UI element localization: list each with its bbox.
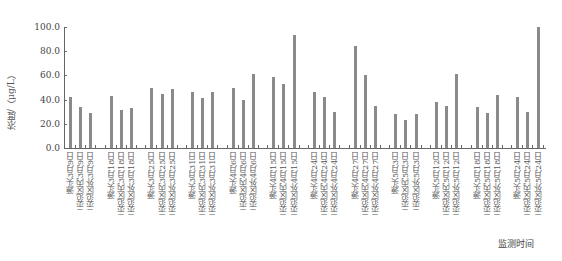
- x-category-label: 示范区外5月3日: [412, 152, 422, 230]
- bar: [333, 112, 336, 148]
- bar: [150, 88, 153, 149]
- x-tick: [522, 145, 523, 148]
- x-category-label: 示范区外4月24日: [330, 152, 340, 230]
- x-group-tick: [186, 145, 187, 148]
- x-category-label: 示范区外3月18日: [127, 152, 137, 230]
- x-tick: [461, 145, 462, 148]
- bar: [110, 96, 113, 148]
- x-tick: [126, 145, 127, 148]
- y-axis-line: [64, 27, 65, 149]
- x-tick: [329, 145, 330, 148]
- x-group-tick: [511, 145, 512, 148]
- x-category-label: 示范区内4月24日: [320, 152, 330, 230]
- x-tick: [400, 145, 401, 148]
- x-tick: [421, 145, 422, 148]
- bar: [232, 88, 235, 149]
- x-tick: [278, 145, 279, 148]
- bar: [323, 97, 326, 148]
- bar: [89, 113, 92, 148]
- bar: [252, 74, 255, 148]
- bar: [537, 27, 540, 148]
- x-group-tick: [267, 145, 268, 148]
- x-category-label: 示范区内4月27日: [361, 152, 371, 230]
- y-tick: [64, 75, 67, 76]
- bar: [171, 89, 174, 148]
- bar: [242, 100, 245, 148]
- x-category-label: 示范区内4月6日: [239, 152, 249, 230]
- x-tick: [410, 145, 411, 148]
- bar: [486, 113, 489, 148]
- x-category-label: 示范区外5月18日: [493, 152, 503, 230]
- y-tick-label: 60.0: [22, 70, 60, 80]
- y-tick: [64, 100, 67, 101]
- x-tick: [238, 145, 239, 148]
- y-tick: [64, 27, 67, 28]
- x-category-label: 源头5月12日: [432, 152, 442, 230]
- x-tick: [217, 145, 218, 148]
- x-tick: [136, 145, 137, 148]
- bar: [201, 98, 204, 148]
- x-category-label: 示范区内5月18日: [483, 152, 493, 230]
- bar: [374, 106, 377, 148]
- bar: [415, 114, 418, 148]
- x-category-label: 示范区内3月31日: [198, 152, 208, 230]
- x-tick: [532, 145, 533, 148]
- x-tick: [116, 145, 117, 148]
- x-group-tick: [145, 145, 146, 148]
- x-tick: [339, 145, 340, 148]
- bar: [191, 92, 194, 148]
- x-tick: [370, 145, 371, 148]
- x-tick: [85, 145, 86, 148]
- x-category-label: 示范区内5月24日: [523, 152, 533, 230]
- x-group-tick: [64, 145, 65, 148]
- y-tick-label: 40.0: [22, 95, 60, 105]
- bar: [516, 97, 519, 148]
- x-tick: [299, 145, 300, 148]
- bar: [404, 120, 407, 148]
- x-category-label: 示范区外3月25日: [168, 152, 178, 230]
- bar: [130, 108, 133, 148]
- bar: [272, 77, 275, 148]
- x-category-label: 源头3月18日: [107, 152, 117, 230]
- bar: [120, 110, 123, 148]
- x-category-label: 示范区内3月18日: [117, 152, 127, 230]
- x-group-tick: [430, 145, 431, 148]
- x-category-label: 源头3月9日: [66, 152, 76, 230]
- x-category-label: 示范区内5月3日: [401, 152, 411, 230]
- x-category-label: 源头5月3日: [391, 152, 401, 230]
- x-category-label: 源头3月25日: [147, 152, 157, 230]
- x-tick: [167, 145, 168, 148]
- x-group-tick: [308, 145, 309, 148]
- x-category-label: 源头4月24日: [310, 152, 320, 230]
- bar: [211, 92, 214, 148]
- bar: [313, 92, 316, 148]
- y-tick: [64, 51, 67, 52]
- x-group-tick: [389, 145, 390, 148]
- x-category-label: 示范区外4月6日: [249, 152, 259, 230]
- y-tick: [64, 124, 67, 125]
- y-tick-label: 100.0: [22, 22, 60, 32]
- x-group-tick: [349, 145, 350, 148]
- x-tick: [248, 145, 249, 148]
- x-tick: [502, 145, 503, 148]
- x-tick: [75, 145, 76, 148]
- x-category-label: 示范区内3月9日: [76, 152, 86, 230]
- x-group-tick: [471, 145, 472, 148]
- x-category-label: 源头5月18日: [473, 152, 483, 230]
- x-tick: [441, 145, 442, 148]
- bar: [282, 84, 285, 148]
- x-category-label: 示范区内4月15日: [279, 152, 289, 230]
- x-tick: [319, 145, 320, 148]
- bar-chart: 浓度/（μg/L） 0.020.040.060.080.0100.0 源头3月9…: [0, 0, 562, 261]
- bar: [435, 102, 438, 148]
- x-category-label: 示范区外5月12日: [452, 152, 462, 230]
- bar: [496, 95, 499, 148]
- x-category-label: 示范区外5月24日: [534, 152, 544, 230]
- y-tick-label: 0.0: [22, 143, 60, 153]
- x-category-label: 源头4月6日: [229, 152, 239, 230]
- bar: [526, 112, 529, 148]
- y-axis-label: 浓度/（μg/L）: [4, 55, 18, 145]
- bar: [364, 75, 367, 148]
- x-category-label: 示范区外3月9日: [86, 152, 96, 230]
- x-tick: [207, 145, 208, 148]
